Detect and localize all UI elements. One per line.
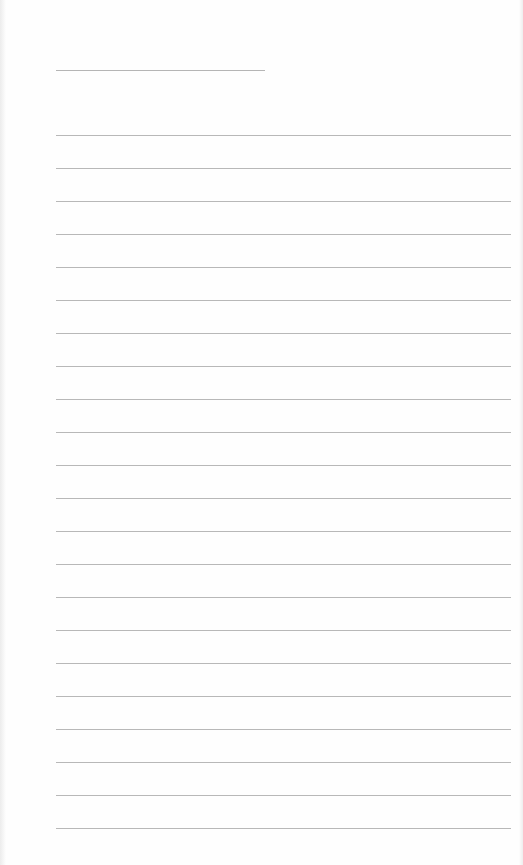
ruled-line [56,366,511,367]
ruled-line [56,432,511,433]
ruled-line [56,135,511,136]
ruled-line [56,729,511,730]
ruled-line [56,762,511,763]
page-shadow-left [0,0,6,865]
ruled-line [56,531,511,532]
ruled-line [56,168,511,169]
ruled-line [56,498,511,499]
lined-paper-page [0,0,523,865]
ruled-line [56,465,511,466]
title-line [56,70,265,71]
ruled-line [56,399,511,400]
ruled-line [56,201,511,202]
page-shadow-right [519,0,523,865]
ruled-line [56,795,511,796]
ruled-line [56,300,511,301]
ruled-line [56,564,511,565]
ruled-line [56,234,511,235]
ruled-line [56,663,511,664]
ruled-line [56,267,511,268]
ruled-line [56,597,511,598]
ruled-line [56,828,511,829]
ruled-line [56,630,511,631]
ruled-line [56,696,511,697]
ruled-line [56,333,511,334]
